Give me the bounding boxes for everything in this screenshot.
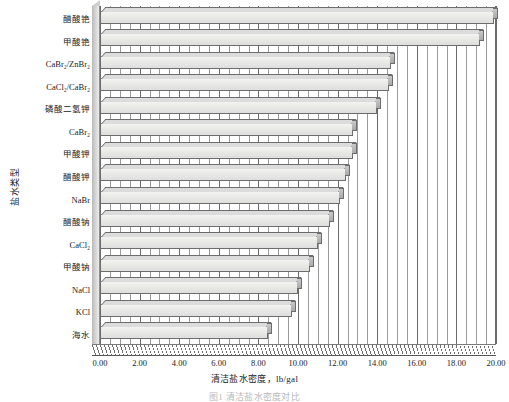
y-axis-tick-labels: 醋酸铯甲酸铯CaBr₂/ZnBr₂CaCl₂/CaBr₂磷酸二氢钾CaBr₂甲酸… <box>10 8 92 352</box>
gridline-minor <box>407 6 408 344</box>
bar <box>100 78 389 91</box>
bar <box>100 33 480 46</box>
axis-left-wall <box>92 6 100 344</box>
x-axis-tick-label: 4.00 <box>172 358 187 368</box>
gridline-minor <box>476 6 477 344</box>
y-axis-tick-label: CaCl₂ <box>10 240 92 250</box>
bar <box>100 304 292 317</box>
bar <box>100 214 330 227</box>
gridline-major <box>496 6 497 344</box>
x-axis-tick-label: 14.00 <box>368 358 387 368</box>
gridline-minor <box>447 6 448 344</box>
y-axis-tick-label: CaBr₂ <box>10 127 92 137</box>
x-axis-tick-label: 18.00 <box>447 358 466 368</box>
axis-floor <box>92 344 496 356</box>
x-axis-tick-label: 20.00 <box>486 358 505 368</box>
y-axis-tick-label: 醋酸铯 <box>10 14 92 24</box>
x-axis-tick-label: 2.00 <box>132 358 147 368</box>
y-axis-tick-label: 甲酸钾 <box>10 149 92 159</box>
gridline-major <box>456 6 457 344</box>
gridline-minor <box>397 6 398 344</box>
y-axis-tick-label: CaBr₂/ZnBr₂ <box>10 59 92 69</box>
y-axis-tick-label: 甲酸铯 <box>10 37 92 47</box>
x-axis-tick-label: 0.00 <box>93 358 108 368</box>
bar <box>100 11 494 24</box>
y-axis-tick-label: 磷酸二氢钾 <box>10 104 92 114</box>
y-axis-tick-label: KCl <box>10 307 92 317</box>
gridline-minor <box>427 6 428 344</box>
bar <box>100 123 353 136</box>
y-axis-tick-label: NaCl <box>10 285 92 295</box>
plot-area <box>92 6 496 356</box>
y-axis-tick-label: NaBr <box>10 195 92 205</box>
x-axis-tick-label: 16.00 <box>407 358 426 368</box>
y-axis-tick-label: 醋酸钾 <box>10 172 92 182</box>
bar <box>100 101 377 114</box>
bar <box>100 236 318 249</box>
gridline-minor <box>486 6 487 344</box>
bar <box>100 281 298 294</box>
x-axis-title: 清洁盐水密度，lb/gal <box>0 372 509 385</box>
x-axis-tick-label: 6.00 <box>211 358 226 368</box>
y-axis-tick-label: CaCl₂/CaBr₂ <box>10 82 92 92</box>
gridline-major <box>417 6 418 344</box>
y-axis-tick-label: 醋酸钠 <box>10 217 92 227</box>
gridline-minor <box>466 6 467 344</box>
y-axis-tick-label: 甲酸钠 <box>10 262 92 272</box>
x-axis-tick-label: 12.00 <box>328 358 347 368</box>
axis-left-wall-top <box>92 0 100 6</box>
x-axis-tick-label: 10.00 <box>288 358 307 368</box>
gridline-minor <box>437 6 438 344</box>
figure-caption: 图1 清洁盐水密度对比 <box>0 390 509 402</box>
bar <box>100 326 268 339</box>
x-axis-tick-labels: 0.002.004.006.008.0010.0012.0014.0016.00… <box>92 358 502 372</box>
bar <box>100 259 310 272</box>
bar <box>100 146 353 159</box>
bar <box>100 56 391 69</box>
bar <box>100 191 340 204</box>
chart-figure: 盐水类型 醋酸铯甲酸铯CaBr₂/ZnBr₂CaCl₂/CaBr₂磷酸二氢钾Ca… <box>0 0 509 402</box>
bar <box>100 168 346 181</box>
plot-canvas <box>100 6 496 344</box>
x-axis-tick-label: 8.00 <box>251 358 266 368</box>
y-axis-tick-label: 海水 <box>10 330 92 340</box>
